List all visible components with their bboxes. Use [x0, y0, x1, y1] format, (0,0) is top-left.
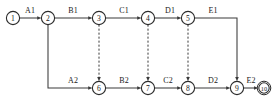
arrowhead-dummy-5-8	[186, 77, 190, 81]
arrowhead-b1	[88, 16, 92, 20]
edge-label-b2: B2	[119, 76, 128, 85]
node-1[interactable]: 1	[6, 11, 19, 24]
edge-label-e1: E1	[209, 6, 218, 15]
edge-label-d2: D2	[208, 76, 218, 85]
arrowhead-a2	[88, 86, 92, 90]
edge-label-c2: C2	[163, 76, 172, 85]
nodes: 1 2 3 4 5 6 7	[6, 11, 270, 94]
node-9[interactable]: 9	[230, 81, 243, 94]
node-label-1: 1	[11, 14, 15, 23]
edge-paths-dashed	[97, 25, 190, 82]
edge-label-e2: E2	[247, 76, 256, 85]
edge-label-c1: C1	[119, 6, 128, 15]
node-label-9: 9	[235, 84, 239, 93]
node-7[interactable]: 7	[141, 81, 154, 94]
arrowhead-b2	[137, 86, 141, 90]
edge-path-e1	[195, 18, 237, 78]
node-10[interactable]: 10	[257, 81, 271, 95]
arrowhead-d1	[177, 16, 181, 20]
node-label-4: 4	[146, 14, 150, 23]
edge-paths-solid	[20, 16, 259, 90]
arrowhead-dummy-3-6	[97, 77, 101, 81]
node-3[interactable]: 3	[92, 11, 105, 24]
node-4[interactable]: 4	[141, 11, 154, 24]
node-label-3: 3	[97, 14, 101, 23]
node-label-2: 2	[46, 14, 50, 23]
node-2[interactable]: 2	[41, 11, 54, 24]
node-label-5: 5	[186, 14, 190, 23]
edge-label-a1: A1	[25, 6, 35, 15]
node-label-7: 7	[146, 84, 150, 93]
arrowhead-c2	[177, 86, 181, 90]
diagram-canvas: A1 B1 C1 D1 E1 A2 B2 C2 D2 E2 1 2 3	[0, 0, 273, 109]
arrowhead-c1	[137, 16, 141, 20]
arrowhead-d2	[226, 86, 230, 90]
node-8[interactable]: 8	[181, 81, 194, 94]
node-5[interactable]: 5	[181, 11, 194, 24]
node-label-6: 6	[97, 84, 101, 93]
edge-label-b1: B1	[68, 6, 77, 15]
edge-label-a2: A2	[68, 76, 78, 85]
arrowhead-e1	[235, 77, 239, 81]
arrowhead-dummy-4-7	[146, 77, 150, 81]
node-label-10: 10	[261, 85, 267, 92]
edge-label-d1: D1	[165, 6, 175, 15]
node-label-8: 8	[186, 84, 190, 93]
network-diagram: A1 B1 C1 D1 E1 A2 B2 C2 D2 E2 1 2 3	[0, 0, 273, 109]
node-6[interactable]: 6	[92, 81, 105, 94]
arrowhead-a1	[37, 16, 41, 20]
